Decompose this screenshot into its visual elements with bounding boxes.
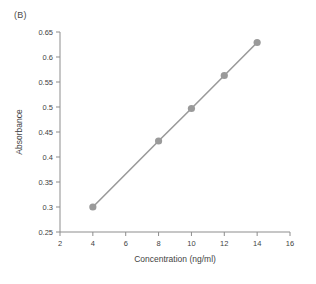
y-tick-label: 0.3	[43, 203, 53, 212]
y-tick-label: 0.4	[43, 153, 53, 162]
data-point	[221, 72, 228, 79]
y-tick-label: 0.35	[38, 178, 53, 187]
panel-label: (B)	[14, 10, 27, 20]
y-tick-label: 0.45	[38, 128, 53, 137]
data-point	[254, 39, 261, 46]
data-series	[89, 39, 260, 211]
x-tick-label: 6	[124, 239, 128, 248]
y-tick-label: 0.25	[38, 228, 53, 237]
data-point	[155, 137, 162, 144]
y-axis-title: Absorbance	[14, 109, 24, 155]
x-tick-label: 16	[286, 239, 294, 248]
x-tick-label: 4	[91, 239, 95, 248]
x-tick-label: 2	[58, 239, 62, 248]
chart-container: (B) 0.250.30.350.40.450.50.550.60.65 246…	[0, 0, 316, 284]
x-tick-label: 8	[156, 239, 160, 248]
x-tick-label: 14	[253, 239, 261, 248]
series-line	[93, 43, 257, 208]
y-tick-label: 0.6	[43, 53, 53, 62]
y-tick-label: 0.55	[38, 78, 53, 87]
y-axis-ticks: 0.250.30.350.40.450.50.550.60.65	[38, 28, 60, 237]
data-point	[188, 105, 195, 112]
plot-axes	[60, 32, 290, 232]
data-point	[89, 203, 96, 210]
x-tick-label: 12	[220, 239, 228, 248]
y-tick-label: 0.65	[38, 28, 53, 37]
standard-curve-plot: 0.250.30.350.40.450.50.550.60.65 2468101…	[0, 0, 316, 284]
x-axis-title: Concentration (ng/ml)	[134, 254, 216, 264]
x-axis-ticks: 246810121416	[58, 232, 294, 248]
x-tick-label: 10	[187, 239, 195, 248]
y-tick-label: 0.5	[43, 103, 53, 112]
